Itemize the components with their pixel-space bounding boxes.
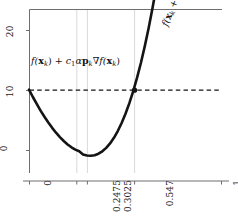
intersection-point-marker — [132, 88, 137, 93]
x-tick-label-0-547: 0.547 — [166, 180, 175, 206]
threshold-close-plus: ) + — [48, 55, 66, 66]
function-curve-line — [29, 0, 164, 156]
y-tick-label-20: 20 — [6, 26, 15, 38]
threshold-p-bold: p — [82, 55, 89, 66]
axis-frame — [30, 10, 223, 174]
plot-panel — [29, 9, 222, 173]
x-tick-label-1: 1 — [233, 180, 238, 186]
y-tick-label-0: 0 — [0, 146, 9, 152]
x-tick-label-0-3025: 0.3025 — [124, 180, 133, 212]
figure-container: 20 10 0 0 0.2475 0.3025 0.547 1 — [0, 0, 238, 221]
x-tick-label-0-2475: 0.2475 — [113, 180, 122, 212]
plot-svg — [29, 9, 222, 173]
threshold-formula-label: f(xk) + c1αpk∇f(xk) — [31, 56, 120, 68]
threshold-close2: ) — [116, 55, 120, 66]
y-tick-label-10: 10 — [6, 86, 15, 98]
threshold-f2: f( — [99, 55, 106, 66]
